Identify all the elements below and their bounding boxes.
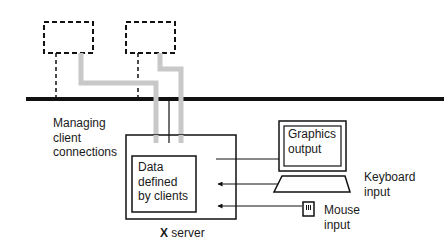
client-box-1 (44, 22, 93, 53)
mouse-input-label: Mouse input (324, 203, 360, 232)
x-server-label-x: X (160, 226, 168, 240)
keyboard-input-label: Keyboard input (364, 170, 415, 199)
managing-connections-label: Managing client connections (53, 116, 117, 160)
graphics-output-label: Graphics output (288, 127, 336, 156)
x-server-label: X server (160, 226, 205, 241)
mouse-icon (303, 202, 314, 216)
keyboard-icon (274, 176, 350, 192)
client-box-2 (126, 22, 175, 53)
x-server-label-suffix: server (168, 226, 205, 240)
client-data-label: Data defined by clients (138, 160, 188, 204)
